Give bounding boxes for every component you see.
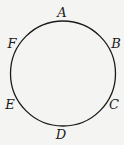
circle bbox=[11, 21, 116, 126]
point-label-c: C bbox=[109, 97, 119, 112]
point-label-b: B bbox=[110, 36, 121, 51]
point-label-a: A bbox=[56, 5, 66, 20]
circle-diagram: A B C D E F bbox=[0, 0, 124, 145]
point-label-e: E bbox=[4, 97, 15, 112]
point-label-f: F bbox=[6, 36, 17, 51]
diagram-svg: A B C D E F bbox=[0, 0, 124, 145]
point-label-d: D bbox=[55, 127, 67, 142]
